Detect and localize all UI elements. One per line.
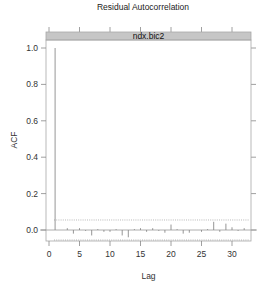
y-tick-label: 0.8 [26,79,38,89]
acf-bars [55,48,244,237]
x-tick-label: 25 [197,249,207,259]
x-axis-label: Lag [141,271,155,281]
y-tick-label: 0.4 [26,152,38,162]
x-tick-label: 15 [136,249,146,259]
plot-panel [46,40,251,241]
x-tick-label: 0 [47,249,52,259]
y-axis: 0.00.20.40.60.81.0 [26,43,46,235]
y-axis-label: ACF [9,132,19,149]
acf-chart: Residual Autocorrelation ndx.bic2 0.00.2… [0,0,270,297]
x-tick-label: 10 [105,249,115,259]
right-axis-ticks [251,48,256,230]
x-tick-label: 5 [77,249,82,259]
panel-strip-label: ndx.bic2 [133,31,165,41]
x-axis: 051015202530 [47,241,237,259]
y-tick-label: 0.0 [26,225,38,235]
y-tick-label: 0.6 [26,116,38,126]
y-tick-label: 0.2 [26,189,38,199]
chart-title: Residual Autocorrelation [97,2,189,12]
y-tick-label: 1.0 [26,43,38,53]
x-tick-label: 30 [227,249,237,259]
x-tick-label: 20 [166,249,176,259]
